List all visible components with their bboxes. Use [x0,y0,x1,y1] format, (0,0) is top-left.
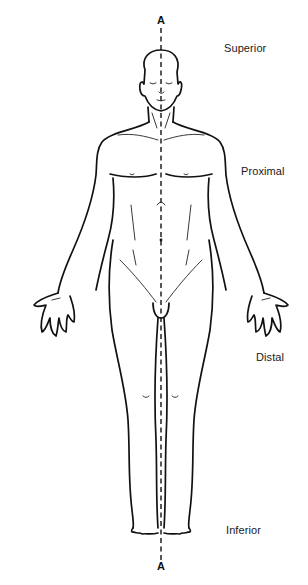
label-distal: Distal [256,351,284,363]
human-figure-drawing [0,0,308,585]
label-superior: Superior [224,42,266,54]
label-inferior: Inferior [226,524,261,536]
anatomical-diagram: A A Superior Proximal Distal Inferior [0,0,308,585]
axis-label-top: A [157,14,165,26]
right-leg-outline [189,240,213,528]
torso-outline [58,122,149,293]
right-hand [247,293,288,336]
left-leg-outline [109,240,133,528]
label-proximal: Proximal [241,165,285,177]
feet [132,528,158,534]
axis-label-bottom: A [157,560,165,572]
